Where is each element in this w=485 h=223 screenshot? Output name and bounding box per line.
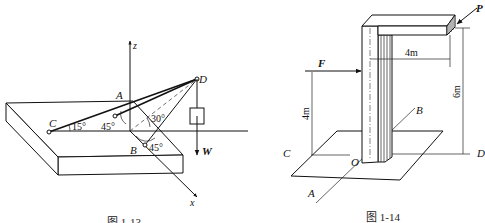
x-axis-label: x	[189, 197, 195, 208]
point-label-O: O	[351, 156, 359, 168]
z-axis-label: z	[132, 40, 137, 51]
angle-label-C: 15°	[72, 121, 86, 132]
point-label-C-right: C	[283, 147, 291, 159]
pin-A	[113, 114, 117, 118]
load-label-W: W	[202, 145, 213, 157]
point-label-B-right: B	[416, 104, 423, 116]
angle-label-A: 45°	[101, 121, 115, 132]
dim-label-arm: 4m	[405, 47, 418, 58]
caption-figure-1-14: 图 1-14	[366, 211, 400, 223]
figure-1-13: z x C A B D 15° 45° 30° 45° W 图 1-13	[6, 40, 248, 223]
figure-1-14: P F 4m 4m 6m C D O A B 图 1-14	[283, 2, 485, 223]
caption-figure-1-13: 图 1-13	[107, 216, 141, 223]
pin-B	[143, 143, 147, 147]
point-label-C: C	[49, 117, 57, 129]
point-label-B: B	[130, 144, 137, 156]
column	[362, 26, 392, 163]
point-label-D-right: D	[476, 147, 485, 159]
pin-C	[47, 130, 51, 134]
angle-label-mid: 30°	[151, 113, 165, 124]
force-label-F: F	[317, 57, 326, 69]
figure-panel: z x C A B D 15° 45° 30° 45° W 图 1-13	[0, 0, 485, 223]
point-label-A: A	[115, 89, 123, 101]
dim-label-force-height: 4m	[300, 107, 311, 120]
point-label-A-right: A	[307, 187, 315, 199]
angle-label-B: 45°	[149, 142, 163, 153]
force-P-arrow	[457, 8, 477, 24]
point-label-D: D	[198, 73, 207, 85]
dim-label-total-height: 6m	[451, 85, 462, 98]
force-label-P: P	[476, 2, 483, 14]
member-AD	[115, 79, 197, 116]
